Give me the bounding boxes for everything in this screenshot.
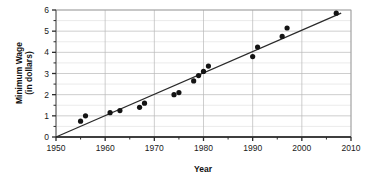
data-point: [334, 11, 339, 16]
data-point: [171, 92, 176, 97]
x-tick-label: 2010: [342, 143, 361, 153]
data-point: [250, 54, 255, 59]
data-point: [284, 25, 289, 30]
x-tick-label: 1950: [47, 143, 66, 153]
y-tick-label: 4: [44, 47, 49, 57]
data-point: [107, 110, 112, 115]
data-point: [78, 119, 83, 124]
data-point: [137, 105, 142, 110]
data-point: [206, 63, 211, 68]
y-tick-label: 3: [44, 69, 49, 79]
data-point: [196, 73, 201, 78]
y-tick-label: 1: [44, 111, 49, 121]
data-point: [255, 44, 260, 49]
chart-canvas: 0123456 1950196019701980199020002010 Yea…: [0, 0, 376, 177]
minimum-wage-scatter-chart: 0123456 1950196019701980199020002010 Yea…: [0, 0, 376, 177]
y-tick-label: 2: [44, 90, 49, 100]
x-tick-label: 2000: [292, 143, 311, 153]
y-tick-label: 5: [44, 26, 49, 36]
x-tick-label: 1990: [243, 143, 262, 153]
y-tick-label: 6: [44, 5, 49, 15]
x-tick-label: 1970: [145, 143, 164, 153]
y-axis-title-line-1: Minimum Wage: [14, 42, 24, 104]
data-point: [201, 69, 206, 74]
data-point: [191, 78, 196, 83]
x-axis-title: Year: [194, 164, 213, 174]
data-point: [83, 113, 88, 118]
data-point: [280, 34, 285, 39]
x-tick-label: 1980: [194, 143, 213, 153]
data-point: [142, 101, 147, 106]
y-tick-label: 0: [44, 132, 49, 142]
y-axis-title-line-2: (in dollars): [24, 51, 34, 95]
data-point: [176, 90, 181, 95]
data-point: [117, 108, 122, 113]
x-tick-label: 1960: [96, 143, 115, 153]
